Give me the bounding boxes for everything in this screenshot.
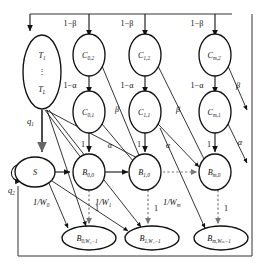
edge-label-one-over-wm: 1/Wm: [163, 197, 181, 208]
node-S-label: S: [33, 168, 37, 177]
edge-label-one-minus-beta-m: 1−β: [191, 19, 204, 28]
node-B00[interactable]: B0,0: [73, 154, 105, 190]
edge-label-one-minus-alpha-1: 1−α: [120, 81, 134, 90]
state-transition-diagram: T1 ⋮ TL S C0,2 C0,1 C1,2 C1,1: [0, 0, 266, 268]
edge-label-q1: q1: [27, 116, 34, 127]
edge-label-one-minus-alpha-m: 1−α: [190, 81, 204, 90]
edge-label-one-minus-alpha-0: 1−α: [63, 81, 77, 90]
edge-label-one-minus-beta-1: 1−β: [121, 19, 134, 28]
edge-label-one-over-w1: 1/W1: [95, 197, 112, 208]
edge-label-alpha-m: α: [238, 138, 243, 147]
node-S[interactable]: S: [15, 157, 55, 187]
node-C11[interactable]: C1,1: [129, 91, 161, 133]
node-Cm2[interactable]: Cm,2: [199, 34, 231, 76]
node-C12[interactable]: C1,2: [129, 34, 161, 76]
node-B10[interactable]: B1,0: [129, 154, 161, 190]
edge-label-one-c1b: 1: [137, 140, 141, 149]
node-Bm0[interactable]: Bm,0: [199, 154, 231, 190]
node-T-vdots: ⋮: [38, 67, 46, 76]
node-Cm1[interactable]: Cm,1: [199, 91, 231, 133]
edge-label-alpha-1: α: [166, 141, 171, 150]
node-C01[interactable]: C0,1: [73, 91, 105, 133]
node-B0W[interactable]: B0,W₀−1: [62, 226, 116, 250]
node-B1W[interactable]: B1,W₁−1: [125, 226, 179, 250]
edge-label-alpha-0: α: [108, 141, 113, 150]
edge-label-one-c0b: 1: [81, 140, 85, 149]
edge-label-q2: q2: [8, 185, 15, 196]
edge-label-beta-m: β: [235, 81, 241, 90]
node-C02[interactable]: C0,2: [73, 34, 105, 76]
edge-label-one-minus-beta-0: 1−β: [64, 19, 77, 28]
edge-label-beta-1: β: [175, 105, 181, 114]
edge-label-one-b1: 1: [154, 204, 158, 213]
node-BmW[interactable]: Bm,Wₘ−1: [194, 226, 248, 250]
node-T[interactable]: T1 ⋮ TL: [23, 35, 61, 109]
edge-label-one-bm: 1: [224, 204, 228, 213]
edge-label-one-cmb: 1: [207, 140, 211, 149]
edge-label-one-over-w0: 1/W0: [33, 197, 50, 208]
